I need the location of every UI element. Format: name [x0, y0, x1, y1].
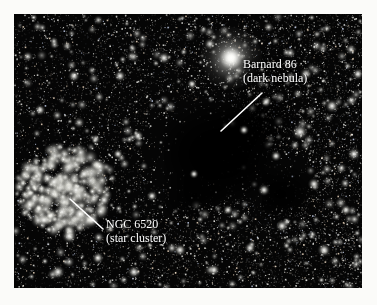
astrophoto-plate: Barnard 86 (dark nebula) NGC 6520 (star … [14, 14, 362, 288]
label-ngc-6520-name: NGC 6520 [106, 218, 166, 232]
label-barnard-86-name: Barnard 86 [243, 58, 307, 72]
label-ngc-6520: NGC 6520 (star cluster) [106, 218, 166, 245]
label-barnard-86: Barnard 86 (dark nebula) [243, 58, 307, 85]
astrophoto-figure: Barnard 86 (dark nebula) NGC 6520 (star … [0, 0, 377, 305]
bright-stars-canvas [14, 14, 362, 288]
label-barnard-86-description: (dark nebula) [243, 72, 307, 86]
label-ngc-6520-description: (star cluster) [106, 232, 166, 246]
